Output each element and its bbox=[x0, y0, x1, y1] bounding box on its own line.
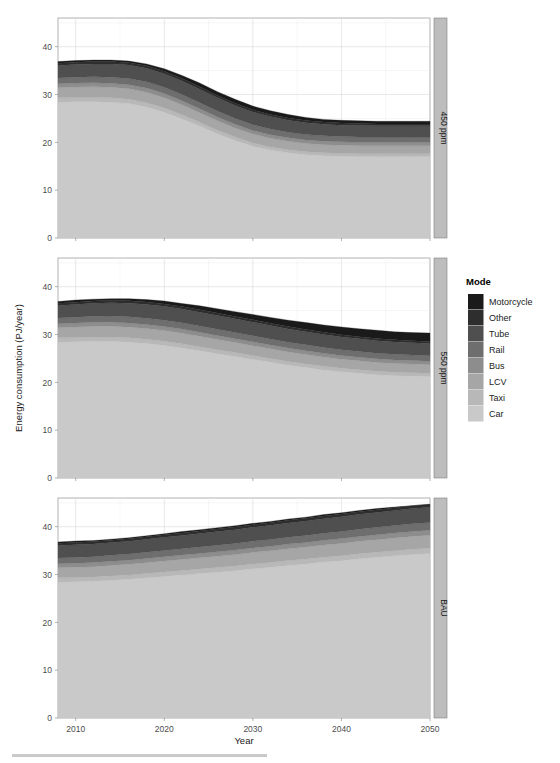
y-tick-label: 30 bbox=[43, 330, 53, 340]
y-tick-label: 10 bbox=[43, 185, 53, 195]
legend-label-car: Car bbox=[489, 409, 504, 419]
y-tick-label: 30 bbox=[43, 90, 53, 100]
caption-rule bbox=[12, 754, 267, 757]
y-tick-label: 40 bbox=[43, 282, 53, 292]
y-tick-label: 40 bbox=[43, 522, 53, 532]
legend-label-lcv: LCV bbox=[489, 377, 507, 387]
x-tick-label: 2010 bbox=[66, 724, 85, 734]
x-tick-label: 2020 bbox=[155, 724, 174, 734]
legend-title: Mode bbox=[466, 276, 491, 287]
facet-panel-550-ppm: 010203040550 ppm bbox=[43, 258, 449, 483]
y-tick-label: 0 bbox=[47, 713, 52, 723]
legend-key-lcv[interactable] bbox=[468, 374, 484, 390]
legend-label-tube: Tube bbox=[489, 329, 509, 339]
legend-label-other: Other bbox=[489, 313, 512, 323]
legend-key-bus[interactable] bbox=[468, 358, 484, 374]
y-axis-title: Energy consumption (PJ/year) bbox=[13, 304, 24, 432]
facet-area-chart: 010203040450 ppm010203040550 ppm01020304… bbox=[0, 0, 560, 763]
legend-label-motorcycle: Motorcycle bbox=[489, 297, 533, 307]
facet-strip-label: BAU bbox=[439, 599, 449, 616]
y-tick-label: 0 bbox=[47, 233, 52, 243]
legend-label-bus: Bus bbox=[489, 361, 505, 371]
legend-label-taxi: Taxi bbox=[489, 393, 505, 403]
legend-key-tube[interactable] bbox=[468, 326, 484, 342]
y-tick-label: 10 bbox=[43, 425, 53, 435]
x-tick-label: 2050 bbox=[421, 724, 440, 734]
y-tick-label: 20 bbox=[43, 618, 53, 628]
y-tick-label: 40 bbox=[43, 42, 53, 52]
legend-key-rail[interactable] bbox=[468, 342, 484, 358]
y-tick-label: 0 bbox=[47, 473, 52, 483]
x-axis-title: Year bbox=[234, 735, 253, 746]
legend-label-rail: Rail bbox=[489, 345, 505, 355]
y-tick-label: 20 bbox=[43, 378, 53, 388]
legend-key-taxi[interactable] bbox=[468, 390, 484, 406]
legend-key-motorcycle[interactable] bbox=[468, 294, 484, 310]
facet-strip-label: 450 ppm bbox=[439, 111, 449, 144]
legend-key-other[interactable] bbox=[468, 310, 484, 326]
facet-panel-450-ppm: 010203040450 ppm bbox=[43, 18, 449, 243]
y-tick-label: 30 bbox=[43, 570, 53, 580]
legend-key-car[interactable] bbox=[468, 406, 484, 422]
y-tick-label: 20 bbox=[43, 138, 53, 148]
x-tick-label: 2030 bbox=[243, 724, 262, 734]
y-tick-label: 10 bbox=[43, 665, 53, 675]
x-tick-label: 2040 bbox=[332, 724, 351, 734]
facet-strip-label: 550 ppm bbox=[439, 351, 449, 384]
facet-panel-bau: 01020304020102020203020402050BAU bbox=[43, 498, 449, 734]
